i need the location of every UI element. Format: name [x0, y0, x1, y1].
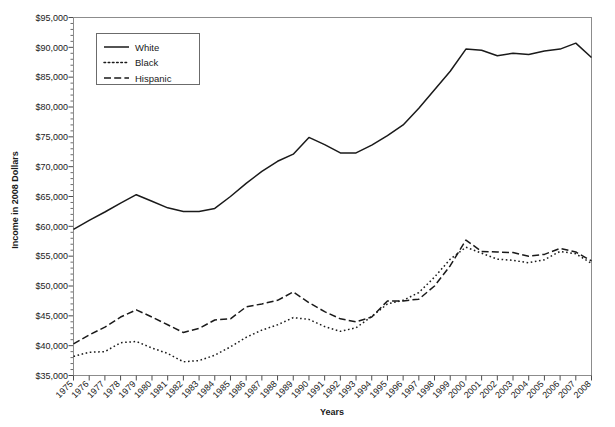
- chart-background: [0, 0, 615, 427]
- income-by-race-line-chart: Income in 2008 Dollars $35,000$40,000$45…: [0, 0, 615, 427]
- y-tick-label: $75,000: [35, 132, 68, 142]
- legend-label-black: Black: [135, 57, 158, 68]
- y-axis-title-text: Income in 2008 Dollars: [10, 151, 20, 249]
- y-tick-label: $70,000: [35, 162, 68, 172]
- y-tick-label: $50,000: [35, 281, 68, 291]
- y-tick-label: $60,000: [35, 222, 68, 232]
- y-tick-label: $40,000: [35, 341, 68, 351]
- y-tick-label: $65,000: [35, 192, 68, 202]
- chart-legend: WhiteBlackHispanic: [97, 34, 200, 85]
- chart-canvas: Income in 2008 Dollars $35,000$40,000$45…: [0, 0, 615, 427]
- x-axis-title-text: Years: [320, 407, 344, 417]
- legend-label-white: White: [135, 42, 159, 53]
- y-axis-title: Income in 2008 Dollars: [10, 151, 20, 249]
- y-tick-label: $90,000: [35, 43, 68, 53]
- y-tick-label: $80,000: [35, 102, 68, 112]
- y-tick-label: $95,000: [35, 13, 68, 23]
- y-tick-label: $45,000: [35, 311, 68, 321]
- y-tick-label: $35,000: [35, 371, 68, 381]
- x-axis-title: Years: [320, 407, 344, 417]
- legend-label-hispanic: Hispanic: [135, 73, 172, 84]
- y-tick-label: $55,000: [35, 251, 68, 261]
- y-tick-label: $85,000: [35, 72, 68, 82]
